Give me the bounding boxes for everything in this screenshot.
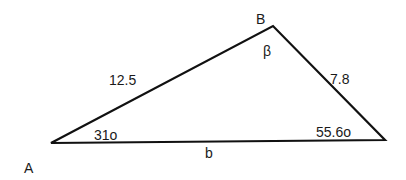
- angle-c-label: 55.6o: [316, 125, 351, 139]
- vertex-a-label: A: [24, 161, 33, 175]
- side-ab-length: 12.5: [109, 73, 136, 87]
- angle-b-label: β: [263, 44, 271, 58]
- vertex-b-label: B: [256, 12, 265, 26]
- angle-a-label: 31o: [94, 128, 117, 142]
- triangle-figure: [0, 0, 406, 180]
- side-ac-label: b: [205, 146, 213, 160]
- side-bc-length: 7.8: [330, 72, 349, 86]
